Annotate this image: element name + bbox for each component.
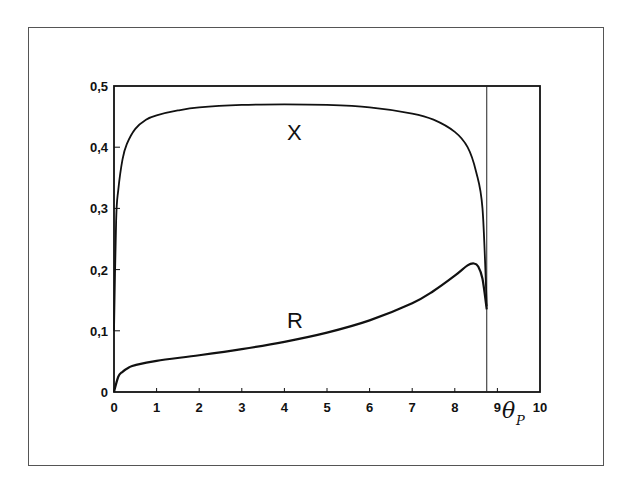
curve-label-r: R <box>287 308 303 333</box>
x-tick-label: 6 <box>366 400 373 415</box>
curves <box>114 104 487 392</box>
y-tick-label: 0,5 <box>90 79 108 94</box>
line-chart: 01234567891000,10,20,30,40,5 X R θ P <box>0 0 631 495</box>
y-tick-label: 0,4 <box>90 140 109 155</box>
y-tick-label: 0,3 <box>90 201 108 216</box>
x-tick-label: 8 <box>451 400 458 415</box>
x-tick-label: 1 <box>153 400 160 415</box>
x-tick-label: 10 <box>533 400 547 415</box>
x-tick-label: 4 <box>281 400 289 415</box>
y-tick-label: 0,2 <box>90 263 108 278</box>
x-tick-label: 0 <box>110 400 117 415</box>
x-tick-label: 2 <box>196 400 203 415</box>
x-tick-label: 5 <box>323 400 330 415</box>
axis-ticks: 01234567891000,10,20,30,40,5 <box>90 79 547 415</box>
plot-area <box>114 86 540 392</box>
x-tick-label: 9 <box>494 400 501 415</box>
x-axis-label-subscript: P <box>515 413 525 428</box>
x-axis-label: θ <box>502 398 515 423</box>
curve-label-x: X <box>287 120 302 145</box>
y-tick-label: 0,1 <box>90 324 108 339</box>
x-tick-label: 7 <box>409 400 416 415</box>
plot-border <box>114 86 540 392</box>
x-tick-label: 3 <box>238 400 245 415</box>
y-tick-label: 0 <box>101 385 108 400</box>
